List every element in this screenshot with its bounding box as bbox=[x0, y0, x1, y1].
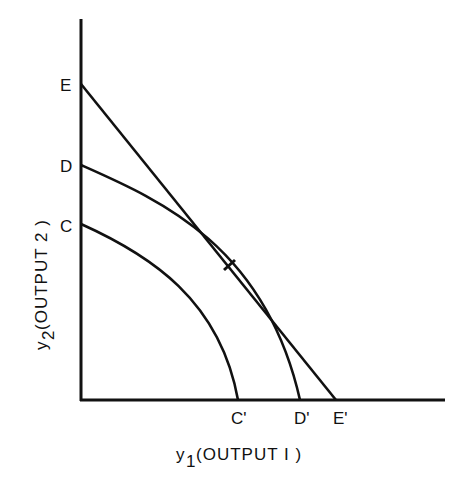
x-axis-text: (OUTPUT I ) bbox=[196, 445, 302, 464]
ppf-diagram: E D C C' D' E' y 1 (OUTPUT I ) y 2 (OUTP… bbox=[0, 0, 466, 486]
y-axis-sub: 2 bbox=[39, 330, 58, 340]
label-d-prime: D' bbox=[294, 409, 310, 428]
y-axis-text: (OUTPUT 2 ) bbox=[32, 219, 51, 330]
label-c-prime: C' bbox=[231, 409, 247, 428]
x-axis-title: y 1 (OUTPUT I ) bbox=[176, 445, 302, 471]
curve-dd bbox=[81, 165, 300, 400]
x-axis-var: y bbox=[176, 445, 186, 464]
x-axis-sub: 1 bbox=[186, 452, 196, 471]
y-axis-var: y bbox=[32, 341, 51, 351]
label-e-prime: E' bbox=[333, 409, 348, 428]
label-e: E bbox=[60, 76, 71, 95]
label-c: C bbox=[60, 217, 72, 236]
y-axis-title: y 2 (OUTPUT 2 ) bbox=[32, 219, 58, 350]
label-d: D bbox=[60, 157, 72, 176]
